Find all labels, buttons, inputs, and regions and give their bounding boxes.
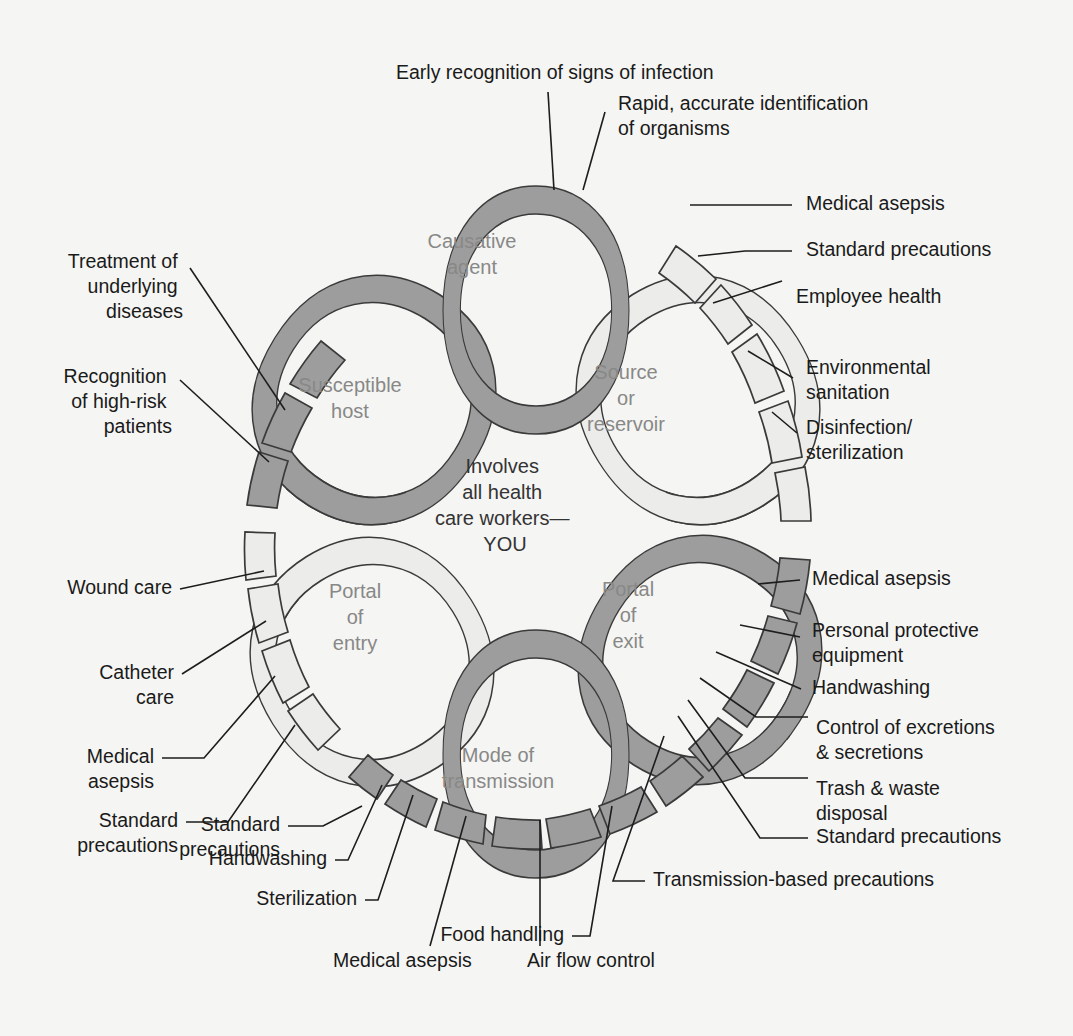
callout-employee-health: Employee health <box>796 285 941 307</box>
callout-transmission-based-precautions: Transmission-based precautions <box>653 868 934 890</box>
callout-medical-asepsis-1: Medical asepsis <box>806 192 945 214</box>
callout-sterilization: Sterilization <box>256 887 357 909</box>
chain-of-infection-diagram: Causativeagent Sourceorreservoir Portalo… <box>0 0 1073 1036</box>
callout-medical-asepsis-3: Medical asepsis <box>333 949 472 971</box>
callout-medical-asepsis-2: Medical asepsis <box>812 567 951 589</box>
diagram-canvas: Causativeagent Sourceorreservoir Portalo… <box>0 0 1073 1036</box>
callout-handwashing-1: Handwashing <box>812 676 930 698</box>
callout-early-recognition: Early recognition of signs of infection <box>396 61 714 83</box>
callout-standard-precautions-2: Standard precautions <box>816 825 1002 847</box>
callout-food-handling: Food handling <box>440 923 564 945</box>
callout-wound-care: Wound care <box>67 576 172 598</box>
callout-standard-precautions-1: Standard precautions <box>806 238 992 260</box>
callout-air-flow-control: Air flow control <box>527 949 655 971</box>
